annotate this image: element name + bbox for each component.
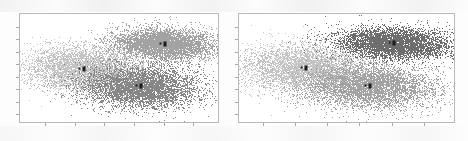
y-tick <box>16 114 19 115</box>
y-tick <box>235 64 238 65</box>
centroid-marker-cluster-medium[interactable] <box>163 41 166 46</box>
y-tick <box>16 39 19 40</box>
x-tick <box>392 123 393 126</box>
x-tick <box>359 123 360 126</box>
centroid-marker-cluster-light[interactable] <box>83 67 86 72</box>
left-plot-area <box>20 14 218 122</box>
y-tick <box>16 64 19 65</box>
centroid-marker-cluster-medium[interactable] <box>369 84 372 89</box>
x-tick <box>45 123 46 126</box>
x-tick <box>263 123 264 126</box>
x-tick <box>327 123 328 126</box>
x-tick <box>164 123 165 126</box>
x-tick <box>104 123 105 126</box>
x-tick <box>424 123 425 126</box>
left-scatter-points <box>20 14 218 122</box>
figure-container <box>0 0 468 141</box>
scan-artifact-band <box>0 0 468 12</box>
x-tick <box>193 123 194 126</box>
y-tick <box>16 102 19 103</box>
y-tick <box>235 52 238 53</box>
y-tick <box>16 77 19 78</box>
left-scatter-panel[interactable] <box>19 13 219 123</box>
y-tick <box>235 39 238 40</box>
y-tick <box>16 89 19 90</box>
right-scatter-panel[interactable] <box>238 13 455 123</box>
x-tick <box>134 123 135 126</box>
centroid-marker-cluster-dark[interactable] <box>392 41 395 46</box>
x-tick <box>75 123 76 126</box>
y-tick <box>235 102 238 103</box>
right-scatter-points <box>239 14 454 122</box>
centroid-marker-cluster-light[interactable] <box>304 66 307 71</box>
y-tick <box>235 27 238 28</box>
y-tick <box>16 27 19 28</box>
scan-artifact-band-lower <box>0 126 468 141</box>
y-tick <box>16 52 19 53</box>
right-plot-area <box>239 14 454 122</box>
y-tick <box>235 77 238 78</box>
y-tick <box>235 89 238 90</box>
x-tick <box>295 123 296 126</box>
centroid-marker-cluster-dark[interactable] <box>139 84 142 89</box>
y-tick <box>235 114 238 115</box>
